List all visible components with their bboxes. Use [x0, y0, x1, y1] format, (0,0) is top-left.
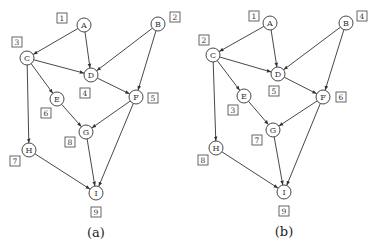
order-number: 4 — [360, 12, 365, 21]
order-badge-a-H: 7 — [10, 156, 20, 166]
order-badge-b-D: 5 — [269, 86, 279, 96]
node-a-A: A — [77, 18, 91, 32]
edge-b-D-F — [284, 77, 317, 94]
order-badge-a-F: 5 — [148, 93, 158, 103]
order-number: 3 — [231, 106, 236, 115]
order-number: 2 — [173, 13, 178, 22]
order-badge-a-D: 4 — [80, 88, 90, 98]
captions-layer: (a)(b) — [87, 224, 293, 240]
edge-b-C-H — [213, 62, 216, 141]
node-label: D — [88, 71, 94, 80]
edge-b-B-F — [325, 30, 344, 91]
order-number: 7 — [13, 157, 18, 166]
order-badge-a-I: 9 — [91, 207, 101, 217]
node-label: C — [24, 54, 30, 63]
edge-b-G-I — [274, 137, 283, 185]
node-a-D: D — [84, 68, 98, 82]
order-labels-layer: 123465879142536789 — [10, 11, 367, 217]
node-b-D: D — [271, 67, 285, 81]
node-b-F: F — [316, 90, 330, 104]
node-label: F — [320, 93, 326, 102]
node-label: A — [80, 21, 87, 30]
edge-b-C-D — [220, 57, 272, 72]
order-number: 5 — [272, 87, 277, 96]
order-badge-b-A: 1 — [249, 11, 259, 21]
order-badge-a-E: 6 — [41, 108, 51, 118]
edge-a-E-G — [62, 104, 82, 126]
order-number: 6 — [339, 93, 344, 102]
order-number: 1 — [252, 12, 257, 21]
node-b-C: C — [206, 48, 220, 62]
edge-a-B-F — [138, 31, 156, 91]
order-number: 2 — [202, 36, 207, 45]
order-badge-a-B: 2 — [170, 12, 180, 22]
node-label: B — [155, 20, 161, 29]
node-label: G — [270, 126, 276, 135]
edge-a-G-I — [87, 139, 95, 186]
order-number: 3 — [15, 38, 20, 47]
order-badge-b-F: 6 — [336, 92, 346, 102]
node-a-B: B — [151, 17, 165, 31]
node-label: G — [83, 128, 89, 137]
node-b-G: G — [266, 123, 280, 137]
order-number: 1 — [60, 14, 65, 23]
order-badge-b-G: 7 — [252, 135, 262, 145]
node-b-A: A — [263, 16, 277, 30]
node-b-I: I — [277, 185, 291, 199]
edge-b-F-I — [287, 104, 321, 186]
edge-b-A-C — [219, 26, 264, 51]
caption-b: (b) — [275, 224, 293, 239]
order-badge-b-I: 9 — [279, 206, 289, 216]
node-b-B: B — [339, 16, 353, 30]
order-badge-a-A: 1 — [57, 13, 67, 23]
order-number: 5 — [151, 94, 156, 103]
node-a-G: G — [79, 125, 93, 139]
node-a-F: F — [129, 90, 143, 104]
dag-diagram: ABCDEFGHIABCDEFGHI 123465879142536789 (a… — [0, 0, 378, 246]
edge-a-C-E — [31, 64, 53, 94]
edge-a-H-I — [35, 154, 90, 189]
node-label: A — [266, 19, 273, 28]
node-a-E: E — [50, 92, 64, 106]
node-label: C — [210, 51, 216, 60]
edge-a-F-I — [99, 104, 134, 187]
order-number: 8 — [201, 156, 206, 165]
node-label: F — [133, 93, 139, 102]
order-number: 9 — [282, 207, 287, 216]
node-b-E: E — [237, 89, 251, 103]
order-badge-b-C: 2 — [199, 35, 209, 45]
order-number: 6 — [44, 109, 49, 118]
node-b-H: H — [209, 141, 223, 155]
order-badge-b-E: 3 — [228, 105, 238, 115]
node-label: H — [26, 146, 33, 155]
order-number: 8 — [68, 138, 73, 147]
node-label: D — [275, 70, 281, 79]
edge-a-A-D — [85, 32, 90, 68]
edge-b-C-E — [217, 61, 240, 91]
node-label: I — [94, 189, 97, 198]
order-number: 7 — [255, 136, 260, 145]
node-label: E — [241, 92, 247, 101]
order-badge-b-H: 8 — [198, 155, 208, 165]
order-badge-a-G: 8 — [65, 137, 75, 147]
edge-a-C-H — [27, 65, 29, 143]
edges-layer — [27, 26, 344, 189]
caption-a: (a) — [87, 225, 105, 240]
edge-b-B-D — [284, 27, 341, 70]
nodes-layer: ABCDEFGHIABCDEFGHI — [20, 16, 353, 200]
edge-b-A-D — [271, 30, 277, 67]
node-label: B — [343, 19, 349, 28]
node-label: H — [213, 144, 220, 153]
edge-a-C-D — [34, 60, 84, 73]
edge-a-D-F — [97, 78, 129, 94]
node-label: I — [282, 188, 285, 197]
order-number: 9 — [94, 208, 99, 217]
edge-a-B-D — [97, 28, 153, 71]
edge-b-F-G — [279, 101, 317, 126]
order-badge-b-B: 4 — [357, 11, 367, 21]
edge-b-H-I — [222, 152, 278, 188]
order-badge-a-C: 3 — [12, 37, 22, 47]
node-a-C: C — [20, 51, 34, 65]
node-label: E — [54, 95, 60, 104]
order-number: 4 — [83, 89, 88, 98]
